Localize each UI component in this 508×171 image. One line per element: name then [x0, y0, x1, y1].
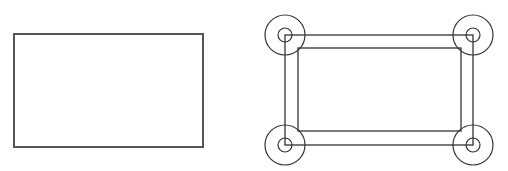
- diagram-svg: [0, 0, 508, 171]
- diagram-canvas: [0, 0, 508, 171]
- rectangle-with-corner-joints: [265, 15, 493, 165]
- plain-rectangle: [14, 34, 203, 147]
- inner-rectangle: [298, 48, 461, 131]
- corner-joints: [265, 15, 493, 165]
- outer-rectangle: [285, 35, 473, 145]
